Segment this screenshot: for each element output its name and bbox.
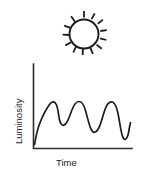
sun-icon <box>63 11 107 55</box>
x-axis-label: Time <box>56 157 77 168</box>
sun-disc <box>70 20 99 49</box>
luminosity-vs-time-figure: Time Luminosity <box>0 0 144 173</box>
y-axis-label: Luminosity <box>13 98 24 144</box>
figure-container: Time Luminosity <box>0 0 144 173</box>
luminosity-curve <box>35 102 131 145</box>
